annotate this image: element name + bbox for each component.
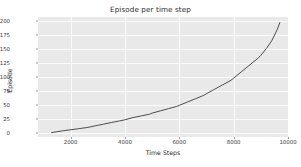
x-tick-label-6000: 6000 — [172, 139, 186, 145]
y-tick-mark-25 — [36, 118, 38, 119]
y-tick-label-0: 0 — [0, 130, 10, 136]
y-tick-mark-100 — [36, 77, 38, 78]
chart-title: Episode per time step — [0, 5, 301, 14]
y-tick-mark-150 — [36, 49, 38, 50]
x-tick-mark-2000 — [71, 137, 72, 139]
y-tick-label-25: 25 — [0, 116, 10, 122]
plot-area — [38, 17, 288, 137]
x-axis-label: Time Steps — [38, 149, 288, 156]
x-tick-label-10000: 10000 — [279, 139, 296, 145]
y-tick-label-200: 200 — [0, 18, 10, 24]
y-tick-mark-125 — [36, 63, 38, 64]
line-series — [38, 17, 288, 137]
y-tick-mark-200 — [36, 21, 38, 22]
x-tick-mark-10000 — [288, 137, 289, 139]
x-tick-label-8000: 8000 — [227, 139, 241, 145]
chart-figure: Episode per time step 025507510012515017… — [0, 0, 301, 167]
x-tick-label-4000: 4000 — [118, 139, 132, 145]
y-tick-mark-75 — [36, 90, 38, 91]
y-axis-label: Episode — [6, 51, 13, 111]
x-tick-mark-8000 — [234, 137, 235, 139]
y-tick-mark-50 — [36, 104, 38, 105]
x-tick-mark-4000 — [125, 137, 126, 139]
episode-line — [52, 23, 280, 133]
x-tick-mark-6000 — [179, 137, 180, 139]
y-tick-label-175: 175 — [0, 32, 10, 38]
x-tick-label-2000: 2000 — [64, 139, 78, 145]
y-tick-mark-0 — [36, 132, 38, 133]
y-tick-mark-175 — [36, 35, 38, 36]
